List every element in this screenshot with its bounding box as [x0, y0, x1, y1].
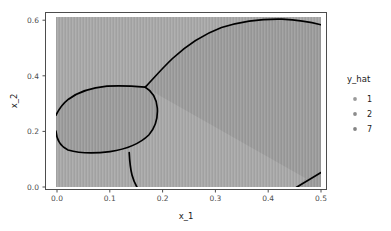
raster-stripe-overlay [56, 17, 321, 187]
y-tick-label: 0.6 [27, 16, 39, 25]
legend-item-label: 7 [367, 125, 372, 134]
y-tick-label: 0.0 [27, 183, 39, 192]
x-tick-label: 0.0 [51, 194, 63, 203]
raster-layer [56, 17, 321, 187]
y-axis-title: x_2 [9, 94, 19, 109]
legend-key-dot-icon [353, 112, 357, 116]
plot-panel [46, 13, 327, 190]
decision-boundary-chart: 0.0 0.1 0.2 0.3 0.4 0.5 x_1 0.0 0.2 0.4 … [0, 0, 391, 231]
x-tick-label: 0.2 [157, 194, 169, 203]
legend-key-dot-icon [353, 127, 357, 131]
x-tick-label: 0.4 [262, 194, 274, 203]
x-tick-label: 0.3 [209, 194, 221, 203]
legend-item-label: 1 [367, 95, 372, 104]
y-tick-label: 0.4 [27, 72, 39, 81]
plot-root: 0.0 0.1 0.2 0.3 0.4 0.5 x_1 0.0 0.2 0.4 … [0, 0, 391, 231]
legend-key-dot-icon [353, 97, 357, 101]
y-tick-label: 0.2 [27, 127, 39, 136]
x-tick-label: 0.1 [104, 194, 116, 203]
x-axis-title: x_1 [179, 211, 194, 221]
legend-item-label: 2 [367, 110, 372, 119]
x-tick-label: 0.5 [315, 194, 327, 203]
legend-title: y_hat [347, 74, 371, 84]
